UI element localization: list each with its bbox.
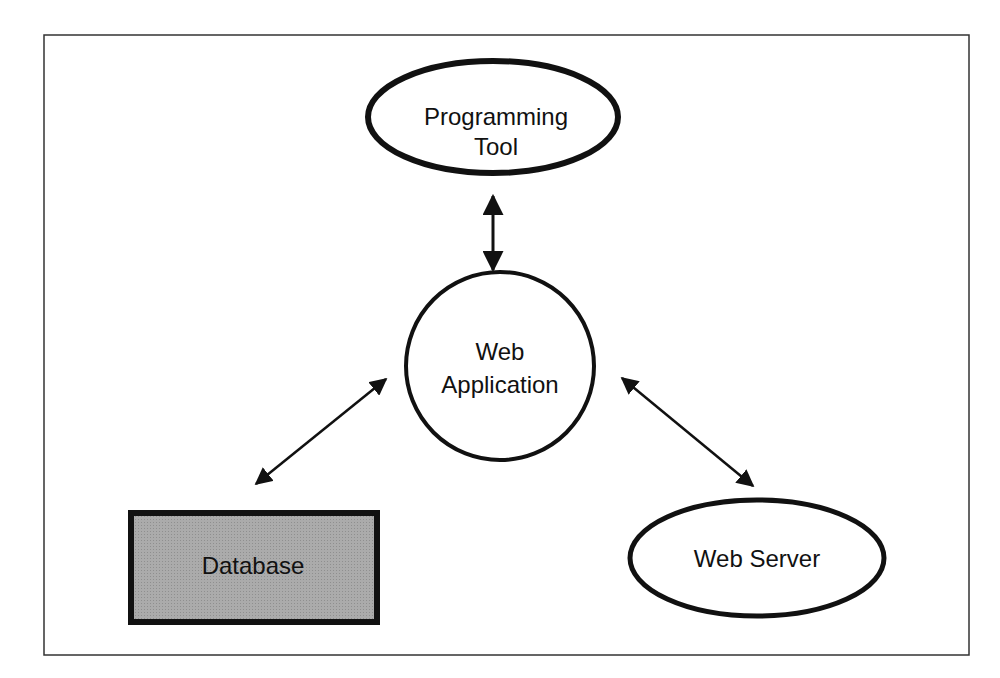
node-label: Tool — [474, 133, 518, 160]
node-programming-tool: Programming Tool — [368, 61, 618, 173]
node-web-server: Web Server — [630, 500, 884, 616]
node-database: Database — [131, 513, 377, 622]
node-label: Programming — [424, 103, 568, 130]
edge-web-application-database — [256, 379, 386, 484]
edge-web-application-web-server — [622, 378, 753, 486]
diagram-canvas: Programming Tool Web Application Databas… — [0, 0, 1000, 678]
node-label: Web — [476, 338, 525, 365]
node-label: Application — [441, 371, 558, 398]
node-label: Web Server — [694, 545, 820, 572]
node-label: Database — [202, 552, 305, 579]
node-web-application: Web Application — [406, 272, 594, 460]
